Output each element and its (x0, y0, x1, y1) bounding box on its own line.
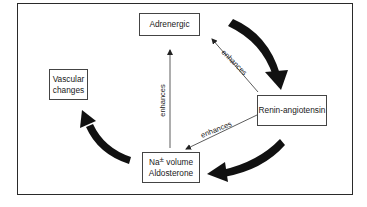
node-adrenergic-label: Adrenergic (149, 19, 189, 30)
node-sodium-line1: Na± volume (149, 157, 193, 168)
volume-text: volume (166, 157, 193, 167)
node-vascular-line1: Vascular (53, 74, 85, 85)
sodium-prefix: Na (149, 157, 160, 167)
node-sodium-volume-aldosterone: Na± volume Aldosterone (142, 152, 200, 183)
thick-arrow-adrenergic-to-renin (228, 19, 288, 90)
edge-label-sodium-adrenergic: enhances (158, 84, 167, 117)
thick-arrow-renin-to-sodium (207, 139, 285, 182)
node-sodium-line2: Aldosterone (149, 168, 193, 179)
node-vascular-changes: Vascular changes (49, 69, 88, 100)
thick-arrow-sodium-to-vascular (80, 110, 131, 164)
node-renin-angiotensin: Renin-angiotensin (257, 95, 327, 126)
node-adrenergic: Adrenergic (139, 13, 200, 36)
plus-minus-symbol: ± (160, 155, 164, 164)
node-renin-label: Renin-angiotensin (259, 105, 326, 116)
node-vascular-line2: changes (53, 85, 84, 96)
